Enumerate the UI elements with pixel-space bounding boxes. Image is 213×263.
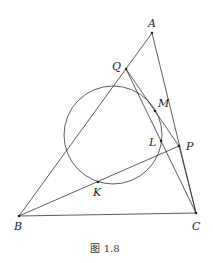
label-A: A (147, 17, 156, 30)
geometry-figure: A Q M L P K B C 图 1.8 (0, 0, 213, 263)
point-P (178, 145, 181, 148)
label-M: M (157, 97, 170, 110)
label-L: L (148, 136, 156, 149)
segment-BP (19, 146, 179, 216)
segment-QP (126, 69, 179, 146)
point-B (18, 215, 21, 218)
segment-BC (19, 213, 196, 216)
point-Q (125, 68, 128, 71)
point-C (195, 212, 198, 215)
point-M (154, 110, 157, 113)
label-B: B (13, 220, 22, 233)
label-K: K (92, 186, 102, 199)
point-L (160, 140, 163, 143)
label-Q: Q (112, 60, 121, 73)
point-A (151, 32, 154, 35)
figure-caption: 图 1.8 (90, 243, 119, 254)
label-P: P (185, 140, 194, 153)
segment-PC (179, 146, 196, 213)
incircle (64, 86, 162, 184)
segment-AB (19, 33, 152, 216)
point-K (97, 181, 100, 184)
label-C: C (192, 220, 201, 233)
